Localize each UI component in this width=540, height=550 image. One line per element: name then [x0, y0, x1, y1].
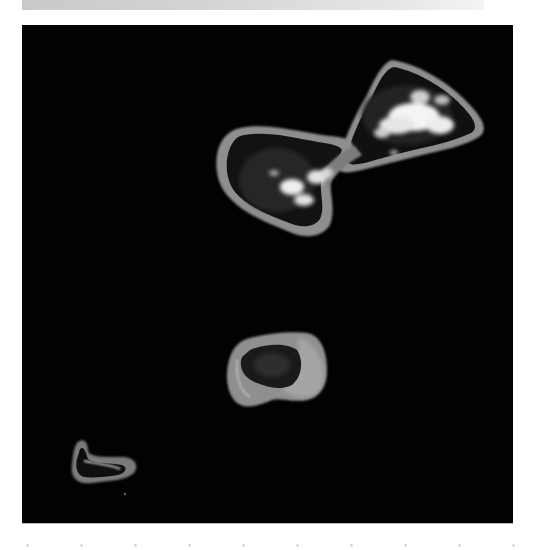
middle-atoll: [227, 332, 327, 406]
caption-fragment: [242, 544, 245, 547]
bottom-caption-strip: [0, 528, 540, 550]
top-gradient-bar: [22, 0, 484, 10]
caption-fragment: [512, 544, 515, 547]
caption-fragment: [350, 544, 353, 547]
caption-fragment: [26, 544, 29, 547]
caption-fragment: [188, 544, 191, 547]
large-atoll: [216, 60, 484, 236]
caption-fragment: [134, 544, 137, 547]
caption-fragment: [296, 544, 299, 547]
caption-fragment: [80, 544, 83, 547]
caption-fragment: [458, 544, 461, 547]
satellite-image: [22, 25, 513, 523]
small-atoll: [72, 440, 137, 495]
caption-fragment: [404, 544, 407, 547]
